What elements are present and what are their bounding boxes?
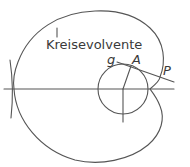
point-label-P: P (163, 64, 171, 77)
involute-curve (14, 11, 164, 162)
tangent-label-g: g (107, 53, 115, 66)
point-label-A: A (132, 53, 141, 66)
involute-diagram (0, 0, 190, 167)
radius-to-A (123, 66, 131, 89)
diagram-title: Kreisevolvente (46, 38, 142, 51)
